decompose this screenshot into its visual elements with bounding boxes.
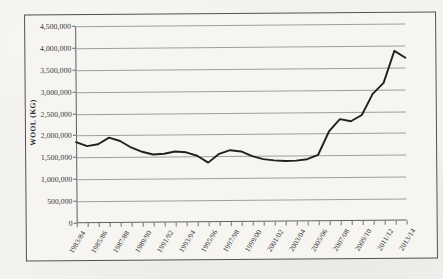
x-tick-mark [77, 223, 78, 227]
y-tick-label: 4,500,000 [40, 22, 71, 31]
x-tick-mark [154, 223, 155, 227]
x-tick-label: 2013/14 [397, 227, 418, 253]
y-tick-label: 2,500,000 [41, 109, 72, 118]
x-tick-mark [297, 221, 298, 225]
y-tick-label: 1,000,000 [41, 175, 72, 184]
x-tick-label: 2011/12 [375, 227, 395, 252]
x-tick-label: 1985/86 [89, 229, 110, 255]
x-tick-label: 1999/00 [243, 228, 264, 254]
x-tick-mark [187, 222, 188, 226]
x-tick-label: 2001/02 [265, 228, 286, 254]
y-tick-label: 0 [69, 219, 73, 228]
x-tick-mark [99, 223, 100, 227]
x-tick-mark [231, 222, 232, 226]
x-tick-label: 2007/08 [331, 227, 352, 253]
x-tick-mark [121, 223, 122, 227]
x-tick-mark [88, 223, 89, 227]
x-tick-mark [308, 221, 309, 225]
x-tick-label: 1997/98 [221, 228, 242, 254]
x-tick-mark [264, 222, 265, 226]
x-tick-mark [407, 221, 408, 225]
x-tick-label: 1983/84 [67, 229, 88, 255]
x-tick-mark [209, 222, 210, 226]
x-tick-mark [385, 221, 386, 225]
x-tick-mark [275, 222, 276, 226]
x-tick-mark [396, 221, 397, 225]
x-tick-label: 1987/88 [111, 229, 132, 255]
x-tick-mark [253, 222, 254, 226]
y-tick-label: 3,500,000 [40, 66, 71, 75]
x-tick-mark [198, 222, 199, 226]
x-tick-mark [363, 221, 364, 225]
y-tick-label: 500,000 [47, 197, 72, 206]
wool-line-chart-figure: WOOL (KG) 0500,0001,000,0001,500,0002,00… [0, 0, 443, 279]
x-tick-label: 2005/06 [309, 227, 330, 253]
x-tick-mark [165, 223, 166, 227]
data-series-svg [75, 24, 407, 224]
y-tick-label: 2,000,000 [41, 131, 72, 140]
x-tick-mark [110, 223, 111, 227]
x-tick-mark [374, 221, 375, 225]
x-tick-mark [143, 223, 144, 227]
x-tick-label: 1989/90 [133, 229, 154, 255]
x-tick-label: 1995/96 [199, 228, 220, 254]
x-tick-label: 2009/10 [353, 227, 374, 253]
x-tick-label: 2003/04 [287, 227, 308, 253]
y-tick-label: 4,000,000 [40, 44, 71, 53]
x-tick-mark [132, 223, 133, 227]
x-tick-label: 1991/92 [155, 228, 176, 254]
y-tick-label: 1,500,000 [41, 153, 72, 162]
x-tick-mark [352, 221, 353, 225]
x-tick-mark [341, 221, 342, 225]
x-tick-mark [220, 222, 221, 226]
y-tick-label: 3,000,000 [40, 87, 71, 96]
x-tick-mark [319, 221, 320, 225]
chart-canvas: WOOL (KG) 0500,0001,000,0001,500,0002,00… [24, 11, 436, 259]
x-tick-mark [330, 221, 331, 225]
y-axis-title: WOOL (KG) [28, 99, 37, 146]
wool-series-line [75, 51, 406, 164]
x-tick-label: 1993/94 [177, 228, 198, 254]
x-tick-mark [286, 222, 287, 226]
x-tick-mark [242, 222, 243, 226]
x-tick-mark [176, 222, 177, 226]
plot-area: 0500,0001,000,0001,500,0002,000,0002,500… [75, 24, 407, 224]
